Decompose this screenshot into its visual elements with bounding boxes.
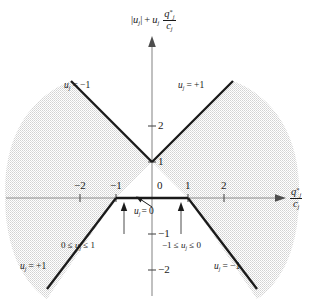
y-axis-title-frac-den-sub: j	[171, 25, 173, 32]
line-label-upper-right: uj= +1	[178, 81, 204, 92]
annotation-range-right: −1 ≤ uj ≤ 0	[162, 241, 201, 251]
y-axis-title-u2-sub: j	[157, 19, 159, 26]
line-label-upper-left: uj= −1	[64, 81, 90, 92]
shaded-region-lower-right	[188, 198, 299, 299]
line-label-lower-right: uj= −1	[214, 262, 240, 273]
y-axis-arrowhead	[148, 36, 156, 47]
y-axis-title: |uj|+uj q*j cj	[131, 9, 176, 33]
diagram-canvas	[0, 0, 312, 306]
x-axis-title-fraction: q*j cj	[290, 187, 302, 211]
line-label-upper-right-eq: = +1	[184, 80, 204, 90]
y-tick-label--2: −2	[158, 264, 170, 275]
y-tick-label-1: 1	[158, 156, 164, 167]
y-tick-label--1: −1	[158, 228, 170, 239]
figure-container: |uj|+uj q*j cj q*j cj −2 −1 0 1 2 2 1 −1…	[0, 0, 312, 306]
annotation-u-zero-eq: = 0	[140, 206, 153, 216]
line-label-lower-left-eq: = +1	[26, 261, 46, 271]
x-axis-title-frac-denominator: cj	[290, 199, 302, 210]
annotation-range-left: 0 ≤ uj ≤ 1	[61, 241, 95, 251]
y-axis-title-plus: +	[142, 14, 152, 25]
x-tick-label-1: 1	[185, 180, 191, 191]
y-axis-title-frac-num-sub: j	[173, 13, 175, 20]
arrow-head-left	[121, 202, 127, 211]
x-tick-label-2: 2	[221, 180, 227, 191]
line-label-upper-left-eq: = −1	[70, 80, 90, 90]
annotation-range-left-post: ≤ 1	[81, 240, 95, 250]
x-tick-label-0: 0	[157, 180, 163, 191]
x-axis-title: q*j cj	[290, 187, 302, 211]
x-tick-label--1: −1	[110, 180, 122, 191]
x-axis-title-frac-num-sub: j	[300, 191, 302, 198]
line-label-lower-right-eq: = −1	[220, 261, 240, 271]
annotation-range-right-pre: −1 ≤	[162, 240, 181, 250]
arrow-head-u-zero	[136, 197, 143, 203]
annotation-u-zero: uj= 0	[134, 207, 154, 218]
y-axis-title-frac-denominator: cj	[163, 21, 175, 32]
arrow-head-right	[178, 202, 184, 211]
line-label-lower-left: uj= +1	[20, 262, 46, 273]
annotation-range-left-pre: 0 ≤	[61, 240, 75, 250]
y-tick-label-2: 2	[158, 120, 164, 131]
x-tick-label--2: −2	[74, 180, 86, 191]
annotation-range-right-post: ≤ 0	[187, 240, 201, 250]
y-axis-title-fraction: q*j cj	[163, 9, 175, 33]
x-axis-title-frac-den-sub: j	[298, 203, 300, 210]
